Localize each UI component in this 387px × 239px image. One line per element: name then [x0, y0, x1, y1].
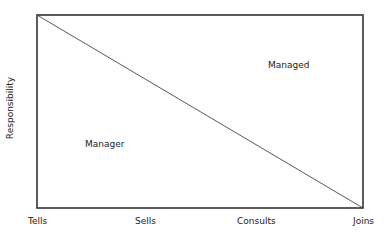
- diagonal-divider: [37, 15, 363, 208]
- region-label-manager: Manager: [85, 139, 124, 149]
- x-axis-label-joins: Joins: [353, 216, 374, 226]
- x-axis-label-sells: Sells: [135, 216, 156, 226]
- x-axis-label-tells: Tells: [28, 216, 47, 226]
- responsibility-diagram: [0, 0, 387, 239]
- x-axis-label-consults: Consults: [237, 216, 276, 226]
- region-label-managed: Managed: [268, 60, 309, 70]
- y-axis-label: Responsibility: [5, 73, 15, 143]
